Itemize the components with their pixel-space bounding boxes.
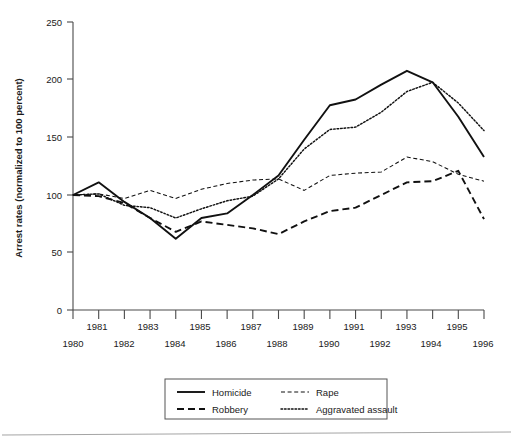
x-tick-label-1987: 1987 xyxy=(240,321,261,332)
x-tick-label-1983: 1983 xyxy=(137,321,158,332)
legend-label-robbery: Robbery xyxy=(212,404,248,415)
x-tick-label-1994: 1994 xyxy=(420,338,441,349)
x-axis-tick-labels-lower: 1980 1982 1984 1986 1988 1990 1992 1994 … xyxy=(62,338,493,349)
x-tick-label-1989: 1989 xyxy=(292,321,313,332)
legend-label-aggravated-assault: Aggravated assault xyxy=(316,404,398,415)
arrest-rates-chart-figure: Arrest rates (normalized to 100 percent)… xyxy=(0,0,513,444)
x-tick-label-1984: 1984 xyxy=(164,338,185,349)
legend-label-homicide: Homicide xyxy=(212,387,252,398)
x-tick-label-1995: 1995 xyxy=(446,321,467,332)
x-tick-label-1992: 1992 xyxy=(369,338,390,349)
x-tick-label-1988: 1988 xyxy=(266,338,287,349)
y-tick-label-150: 150 xyxy=(46,132,62,143)
x-tick-label-1996: 1996 xyxy=(472,338,493,349)
x-tick-label-1981: 1981 xyxy=(86,321,107,332)
x-tick-label-1980: 1980 xyxy=(62,338,83,349)
y-tick-label-250: 250 xyxy=(46,17,62,28)
x-tick-label-1991: 1991 xyxy=(343,321,364,332)
y-tick-label-200: 200 xyxy=(46,74,62,85)
x-tick-label-1982: 1982 xyxy=(113,338,134,349)
x-tick-label-1993: 1993 xyxy=(395,321,416,332)
x-tick-label-1985: 1985 xyxy=(189,321,210,332)
chart-background xyxy=(0,0,513,444)
legend-label-rape: Rape xyxy=(316,387,339,398)
chart-canvas: Arrest rates (normalized to 100 percent)… xyxy=(0,0,513,444)
y-tick-label-50: 50 xyxy=(51,247,62,258)
x-tick-label-1990: 1990 xyxy=(318,338,339,349)
y-axis-title: Arrest rates (normalized to 100 percent) xyxy=(13,78,24,258)
y-tick-label-100: 100 xyxy=(46,190,62,201)
x-tick-label-1986: 1986 xyxy=(215,338,236,349)
y-tick-label-0: 0 xyxy=(57,305,62,316)
